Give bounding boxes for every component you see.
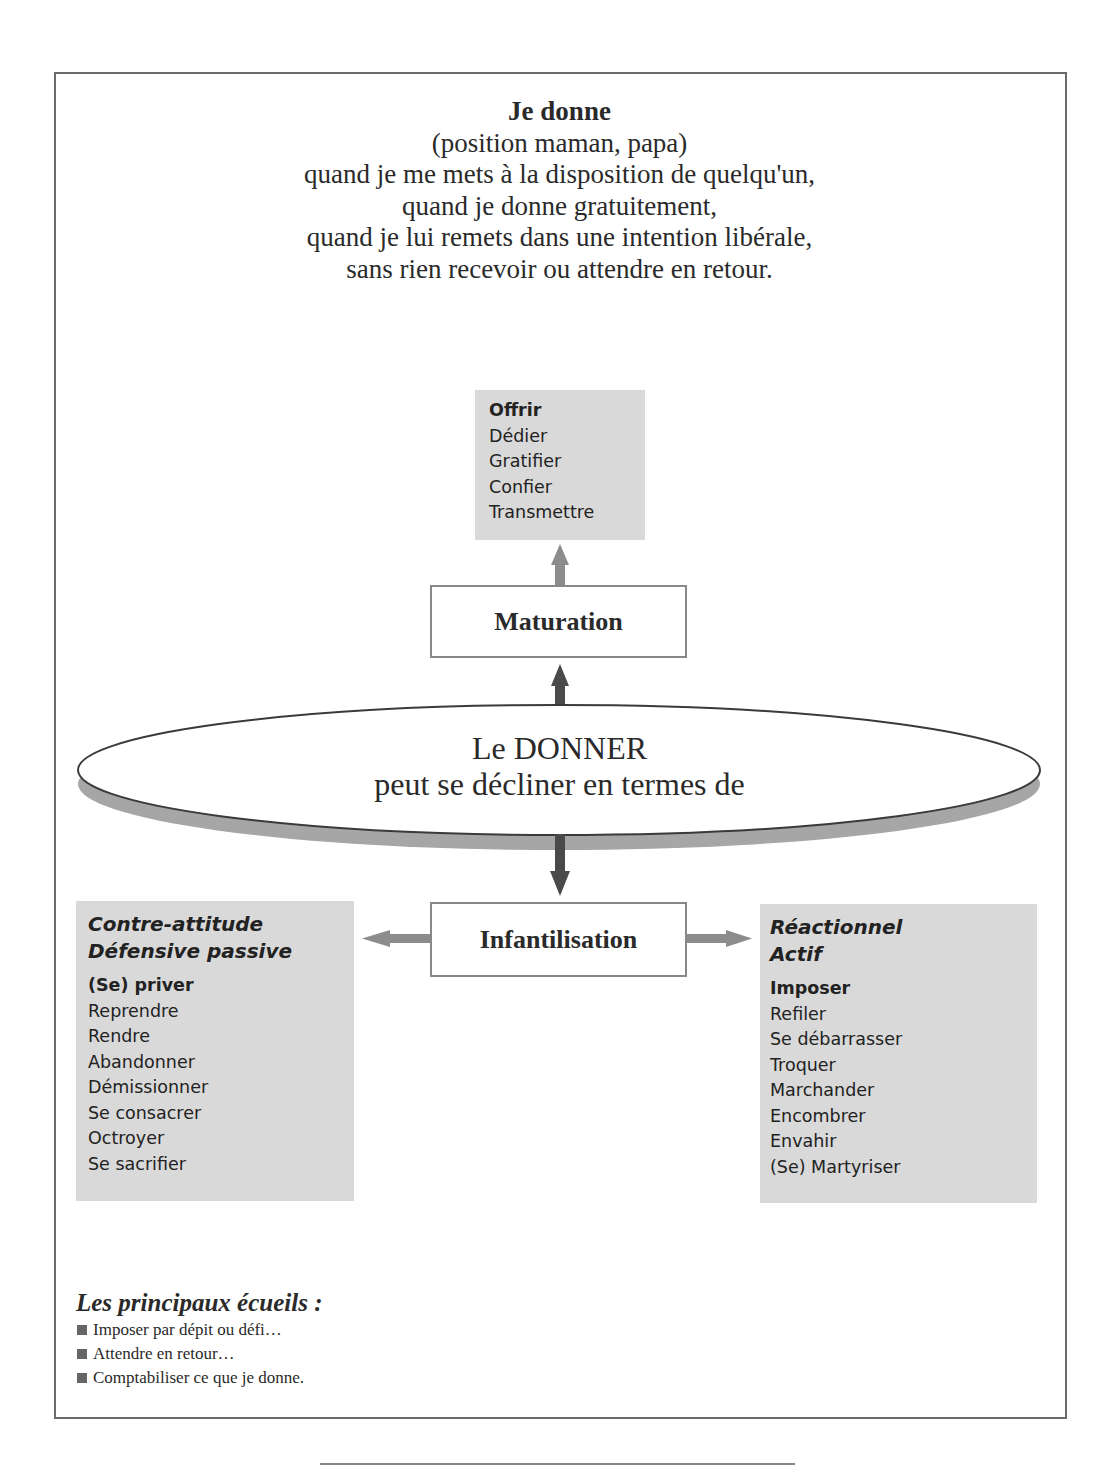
infantilisation-label: Infantilisation	[480, 925, 638, 955]
verb-item: Refiler	[770, 1002, 1037, 1028]
maturation-box: Maturation	[430, 585, 687, 658]
maturation-verbs-box: Offrir Dédier Gratifier Confier Transmet…	[475, 390, 645, 540]
verb-item: Rendre	[88, 1024, 354, 1050]
box-heading: Défensive passive	[88, 938, 354, 965]
pitfall-text: Imposer par dépit ou défi…	[93, 1318, 282, 1342]
verb-item: Démissionner	[88, 1075, 354, 1101]
verb-item: Encombrer	[770, 1104, 1037, 1130]
verb-item: Octroyer	[88, 1126, 354, 1152]
verb-item: Imposer	[770, 976, 1037, 1002]
verb-item: Se débarrasser	[770, 1027, 1037, 1053]
box-heading: Actif	[770, 941, 1037, 968]
pitfalls-title: Les principaux écueils :	[76, 1288, 323, 1318]
ellipse-line-2: peut se décliner en termes de	[0, 766, 1119, 802]
reactive-active-box: Réactionnel Actif Imposer Refiler Se déb…	[760, 904, 1037, 1203]
verb-item: Confier	[489, 475, 645, 501]
pitfall-item: Attendre en retour…	[76, 1342, 323, 1366]
maturation-label: Maturation	[494, 607, 623, 637]
verb-item: Reprendre	[88, 999, 354, 1025]
infantilisation-box: Infantilisation	[430, 902, 687, 977]
verb-item: (Se) priver	[88, 973, 354, 999]
arrow-up-dark-icon	[551, 664, 569, 708]
ellipse-text: Le DONNER peut se décliner en termes de	[0, 730, 1119, 802]
square-bullet-icon	[77, 1373, 87, 1383]
verb-item: Se sacrifier	[88, 1152, 354, 1178]
verb-item: Gratifier	[489, 449, 645, 475]
pitfalls-section: Les principaux écueils : Imposer par dép…	[76, 1288, 323, 1390]
pitfall-item: Imposer par dépit ou défi…	[76, 1318, 323, 1342]
verb-item: Transmettre	[489, 500, 645, 526]
verb-item: Marchander	[770, 1078, 1037, 1104]
verb-item: Troquer	[770, 1053, 1037, 1079]
verb-item: Dédier	[489, 424, 645, 450]
arrow-left-icon	[362, 930, 431, 947]
verb-item: (Se) Martyriser	[770, 1155, 1037, 1181]
arrow-right-icon	[686, 930, 752, 947]
passive-defense-box: Contre-attitude Défensive passive (Se) p…	[76, 901, 354, 1201]
box-heading: Réactionnel	[770, 914, 1037, 941]
square-bullet-icon	[77, 1349, 87, 1359]
verb-item: Envahir	[770, 1129, 1037, 1155]
verb-item: Offrir	[489, 398, 645, 424]
square-bullet-icon	[77, 1325, 87, 1335]
verb-item: Se consacrer	[88, 1101, 354, 1127]
box-heading: Contre-attitude	[88, 911, 354, 938]
pitfall-text: Attendre en retour…	[93, 1342, 235, 1366]
ellipse-line-1: Le DONNER	[0, 730, 1119, 766]
pitfall-item: Comptabiliser ce que je donne.	[76, 1366, 323, 1390]
verb-item: Abandonner	[88, 1050, 354, 1076]
footer-divider	[320, 1463, 795, 1465]
arrow-up-light-icon	[551, 544, 569, 586]
pitfall-text: Comptabiliser ce que je donne.	[93, 1366, 304, 1390]
